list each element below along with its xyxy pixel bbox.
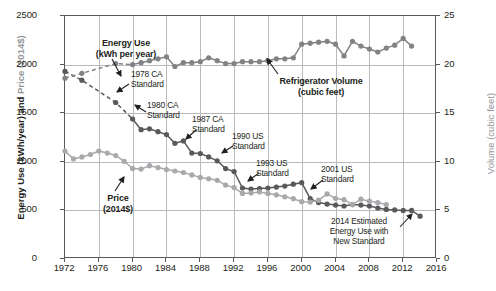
data-point bbox=[257, 59, 262, 64]
data-point bbox=[232, 61, 237, 66]
data-point bbox=[223, 183, 228, 188]
data-point bbox=[291, 55, 296, 60]
data-point bbox=[198, 151, 203, 156]
data-point bbox=[325, 191, 330, 196]
data-point bbox=[113, 153, 118, 158]
y-tick-label-left: 2500 bbox=[0, 9, 37, 20]
x-tick-mark bbox=[64, 258, 65, 262]
x-tick-mark bbox=[98, 258, 99, 262]
y-tick-mark-right bbox=[436, 15, 440, 16]
x-tick-mark bbox=[165, 258, 166, 262]
data-point bbox=[155, 165, 160, 170]
data-point bbox=[79, 78, 84, 83]
data-point bbox=[223, 166, 228, 171]
data-point bbox=[88, 152, 93, 157]
data-point bbox=[367, 199, 372, 204]
data-point bbox=[240, 191, 245, 196]
y-tick-mark-left bbox=[60, 161, 64, 162]
data-point bbox=[401, 36, 406, 41]
data-point bbox=[274, 185, 279, 190]
y-tick-label-right: 20 bbox=[444, 58, 484, 69]
annotation-ca-1978: 1978 CA Standard bbox=[131, 69, 191, 89]
data-point bbox=[113, 100, 118, 105]
data-point bbox=[62, 69, 67, 74]
data-point bbox=[316, 40, 321, 45]
data-point bbox=[79, 154, 84, 159]
data-point bbox=[189, 151, 194, 156]
y-tick-label-left: 2000 bbox=[0, 58, 37, 69]
data-point bbox=[299, 180, 304, 185]
x-tick-label: 2016 bbox=[416, 262, 456, 273]
data-point bbox=[274, 56, 279, 61]
data-point bbox=[189, 172, 194, 177]
data-point bbox=[358, 44, 363, 49]
data-point bbox=[316, 198, 321, 203]
data-point bbox=[392, 207, 397, 212]
data-point bbox=[155, 129, 160, 134]
data-point bbox=[147, 163, 152, 168]
data-point bbox=[113, 61, 118, 66]
y-tick-label-left: 500 bbox=[0, 203, 37, 214]
data-point bbox=[291, 182, 296, 187]
annotation-us-1993: 1993 US Standard bbox=[256, 158, 316, 178]
data-point bbox=[198, 175, 203, 180]
data-point bbox=[299, 42, 304, 47]
data-point bbox=[181, 170, 186, 175]
x-tick-mark bbox=[368, 258, 369, 262]
y-tick-mark-right bbox=[436, 161, 440, 162]
data-point bbox=[291, 196, 296, 201]
data-point bbox=[181, 60, 186, 65]
y-tick-label-right: 5 bbox=[444, 203, 484, 214]
data-point bbox=[375, 205, 380, 210]
data-point bbox=[215, 58, 220, 63]
data-point bbox=[325, 39, 330, 44]
y-tick-mark-left bbox=[60, 112, 64, 113]
data-point bbox=[257, 189, 262, 194]
data-point bbox=[333, 203, 338, 208]
x-tick-mark bbox=[132, 258, 133, 262]
data-point bbox=[409, 208, 414, 213]
series-line-dashed bbox=[65, 71, 133, 119]
data-point bbox=[215, 178, 220, 183]
data-point bbox=[367, 203, 372, 208]
y-tick-mark-right bbox=[436, 209, 440, 210]
y-tick-label-right: 15 bbox=[444, 106, 484, 117]
data-point bbox=[240, 59, 245, 64]
data-point bbox=[333, 196, 338, 201]
data-point bbox=[248, 190, 253, 195]
data-point bbox=[341, 197, 346, 202]
data-point bbox=[358, 203, 363, 208]
data-point bbox=[130, 166, 135, 171]
data-point bbox=[164, 167, 169, 172]
data-point bbox=[274, 192, 279, 197]
annotation-us-1990: 1990 US Standard bbox=[232, 131, 292, 151]
y-tick-mark-right bbox=[436, 64, 440, 65]
data-point bbox=[181, 138, 186, 143]
annotation-energy-use: Energy Use (kWh per year) bbox=[66, 38, 186, 60]
data-point bbox=[206, 176, 211, 181]
data-point bbox=[62, 76, 67, 81]
data-point bbox=[282, 184, 287, 189]
data-point bbox=[96, 149, 101, 154]
y-tick-mark-left bbox=[60, 209, 64, 210]
annotation-us-2001: 2001 US Standard bbox=[321, 164, 381, 184]
data-point bbox=[282, 194, 287, 199]
x-tick-mark bbox=[335, 258, 336, 262]
annotation-price: Price (2014$) bbox=[88, 193, 148, 215]
data-point bbox=[418, 214, 423, 219]
y-tick-label-right: 10 bbox=[444, 155, 484, 166]
data-point bbox=[392, 43, 397, 48]
x-tick-mark bbox=[436, 258, 437, 262]
data-point bbox=[333, 42, 338, 47]
data-point bbox=[240, 185, 245, 190]
annotation-refrigerator-volume: Refrigerator Volume (cubic feet) bbox=[251, 76, 391, 98]
data-point bbox=[206, 55, 211, 60]
data-point bbox=[265, 185, 270, 190]
data-point bbox=[130, 116, 135, 121]
data-point bbox=[164, 132, 169, 137]
data-point bbox=[367, 46, 372, 51]
data-point bbox=[122, 159, 127, 164]
data-point bbox=[215, 158, 220, 163]
y-tick-mark-right bbox=[436, 112, 440, 113]
